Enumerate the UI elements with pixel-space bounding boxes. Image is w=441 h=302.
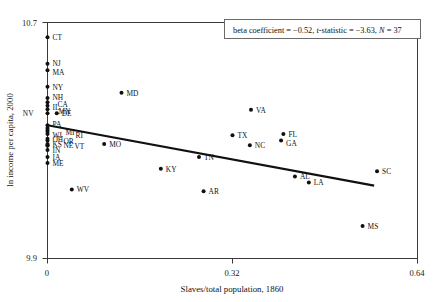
point-label-WV: WV bbox=[77, 185, 90, 194]
point-label-NJ: NJ bbox=[53, 59, 61, 68]
point-label-RI: RI bbox=[76, 131, 84, 140]
data-point-NJ bbox=[46, 62, 50, 66]
point-label-CT: CT bbox=[53, 33, 63, 42]
scatter-plot-figure: CTNJMANYNHCAILMNNVDEPAMIRIWIOHORKSNEVTIN… bbox=[0, 0, 441, 302]
x-axis-title: Slaves/total population, 1860 bbox=[181, 284, 284, 294]
data-point-DE bbox=[55, 111, 59, 115]
data-point-NH bbox=[46, 96, 50, 100]
data-point-MD bbox=[120, 91, 124, 95]
point-label-FL: FL bbox=[288, 130, 297, 139]
point-label-PA: PA bbox=[53, 120, 62, 129]
data-point-IL bbox=[46, 104, 50, 108]
data-point-GA bbox=[279, 139, 283, 143]
data-point-MO bbox=[102, 142, 106, 146]
legend-t-rest: -statistic = bbox=[319, 26, 356, 35]
data-point-IA bbox=[46, 155, 50, 159]
data-point-TX bbox=[231, 133, 235, 137]
point-label-LA: LA bbox=[314, 178, 325, 187]
x-tick-label-1: 0.32 bbox=[224, 268, 239, 278]
data-point-TN bbox=[197, 155, 201, 159]
data-point-WV bbox=[70, 187, 74, 191]
data-point-LA bbox=[307, 180, 311, 184]
data-point-MA bbox=[46, 68, 50, 72]
point-label-GA: GA bbox=[286, 139, 297, 148]
legend-t-value: −3.63, bbox=[356, 26, 379, 35]
legend-n-value: = 37 bbox=[385, 26, 402, 35]
point-label-MA: MA bbox=[53, 68, 66, 77]
y-tick-label-top: 10.7 bbox=[22, 18, 38, 28]
data-point-OR bbox=[46, 139, 50, 143]
data-point-SC bbox=[375, 169, 379, 173]
point-label-NE: NE bbox=[64, 141, 74, 150]
point-label-TN: TN bbox=[204, 153, 215, 162]
point-label-AR: AR bbox=[209, 187, 219, 196]
data-point-NV bbox=[46, 111, 50, 115]
point-label-NY: NY bbox=[53, 83, 64, 92]
point-label-VT: VT bbox=[75, 142, 85, 151]
legend-beta-value: −0.52, bbox=[293, 26, 316, 35]
data-point-CT bbox=[46, 35, 50, 39]
point-label-MS: MS bbox=[368, 222, 379, 231]
point-label-AL: AL bbox=[300, 172, 310, 181]
point-label-VA: VA bbox=[256, 106, 266, 115]
data-point-IN bbox=[46, 148, 50, 152]
data-point-KY bbox=[159, 167, 163, 171]
x-tick-label-0: 0 bbox=[45, 268, 49, 278]
data-point-VT bbox=[46, 144, 50, 148]
legend-beta-label: beta coefficient = bbox=[233, 26, 293, 35]
data-point-MS bbox=[361, 224, 365, 228]
data-point-MN bbox=[46, 107, 50, 111]
legend-box: beta coefficient = −0.52, t-statistic = … bbox=[225, 20, 421, 39]
data-point-WI bbox=[46, 132, 50, 136]
point-label-ME: ME bbox=[53, 159, 65, 168]
point-label-MI: MI bbox=[66, 128, 76, 137]
plot-frame bbox=[48, 23, 418, 259]
data-point-NC bbox=[248, 143, 252, 147]
point-label-DE: DE bbox=[62, 109, 72, 118]
point-label-KY: KY bbox=[166, 165, 177, 174]
point-label-SC: SC bbox=[382, 167, 391, 176]
data-point-FL bbox=[281, 132, 285, 136]
point-label-NC: NC bbox=[255, 141, 265, 150]
y-axis-title: ln income per capita, 2000 bbox=[5, 93, 15, 187]
point-label-MO: MO bbox=[109, 140, 122, 149]
data-point-NY bbox=[46, 85, 50, 89]
y-tick-label-bottom: 9.9 bbox=[26, 253, 37, 263]
legend-text: beta coefficient = −0.52, t-statistic = … bbox=[233, 26, 402, 35]
data-point-ME bbox=[46, 161, 50, 165]
point-label-NV: NV bbox=[23, 109, 34, 118]
data-point-AL bbox=[293, 174, 297, 178]
data-point-VA bbox=[249, 108, 253, 112]
x-tick-label-2: 0.64 bbox=[409, 268, 425, 278]
data-point-CA bbox=[46, 100, 50, 104]
plot-svg: CTNJMANYNHCAILMNNVDEPAMIRIWIOHORKSNEVTIN… bbox=[0, 0, 441, 302]
point-label-MD: MD bbox=[127, 89, 140, 98]
point-label-TX: TX bbox=[238, 131, 249, 140]
data-point-AR bbox=[202, 189, 206, 193]
data-points: CTNJMANYNHCAILMNNVDEPAMIRIWIOHORKSNEVTIN… bbox=[23, 33, 391, 231]
